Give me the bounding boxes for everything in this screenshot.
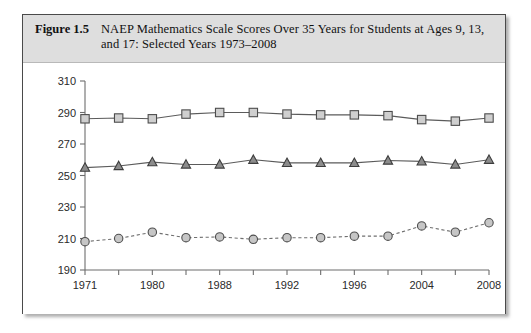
data-point-marker — [114, 234, 122, 242]
data-point-marker — [148, 228, 156, 236]
data-point-marker — [81, 115, 89, 123]
data-point-marker — [316, 111, 324, 119]
data-point-marker — [485, 114, 493, 122]
x-tick-label: 2008 — [477, 279, 501, 291]
figure-title: NAEP Mathematics Scale Scores Over 35 Ye… — [101, 22, 493, 52]
x-axis: 1971198019881992199620042008 — [73, 270, 501, 291]
data-point-marker — [249, 155, 258, 163]
data-point-marker — [417, 115, 425, 123]
y-tick-label: 310 — [58, 75, 76, 87]
figure-header: Figure 1.5 NAEP Mathematics Scale Scores… — [23, 15, 505, 63]
data-point-marker — [384, 232, 392, 240]
data-point-marker — [283, 110, 291, 118]
data-point-marker — [384, 111, 392, 119]
y-axis: 190210230250270290310 — [58, 75, 85, 276]
data-point-marker — [81, 237, 89, 245]
plot-region: 190210230250270290310 197119801988199219… — [23, 63, 505, 314]
y-tick-label: 230 — [58, 201, 76, 213]
data-point-marker — [485, 219, 493, 227]
data-point-marker — [417, 222, 425, 230]
x-tick-label: 2004 — [409, 279, 433, 291]
y-tick-label: 190 — [58, 264, 76, 276]
y-tick-label: 250 — [58, 170, 76, 182]
series-age-9 — [81, 219, 493, 246]
line-chart: 190210230250270290310 197119801988199219… — [23, 63, 505, 314]
y-tick-label: 210 — [58, 233, 76, 245]
data-point-marker — [249, 235, 257, 243]
data-point-marker — [451, 228, 459, 236]
data-point-marker — [484, 155, 493, 163]
data-point-marker — [249, 108, 257, 116]
data-point-marker — [383, 156, 392, 164]
x-tick-label: 1971 — [73, 279, 97, 291]
figure-card: Figure 1.5 NAEP Mathematics Scale Scores… — [22, 14, 506, 314]
series-age-13 — [80, 155, 493, 171]
x-tick-label: 1996 — [342, 279, 366, 291]
data-point-marker — [316, 234, 324, 242]
figure-number: Figure 1.5 — [35, 22, 101, 37]
data-point-marker — [350, 111, 358, 119]
series-layer — [80, 108, 493, 246]
data-point-marker — [215, 233, 223, 241]
series-age-17 — [81, 108, 493, 125]
data-point-marker — [148, 115, 156, 123]
x-tick-label: 1980 — [140, 279, 164, 291]
data-point-marker — [114, 114, 122, 122]
y-tick-label: 290 — [58, 107, 76, 119]
data-point-marker — [283, 234, 291, 242]
data-point-marker — [316, 158, 325, 166]
data-point-marker — [148, 157, 157, 165]
y-tick-label: 270 — [58, 138, 76, 150]
data-point-marker — [182, 110, 190, 118]
data-point-marker — [182, 234, 190, 242]
x-tick-label: 1988 — [207, 279, 231, 291]
x-tick-label: 1992 — [275, 279, 299, 291]
data-point-marker — [451, 117, 459, 125]
data-point-marker — [350, 232, 358, 240]
data-point-marker — [215, 108, 223, 116]
